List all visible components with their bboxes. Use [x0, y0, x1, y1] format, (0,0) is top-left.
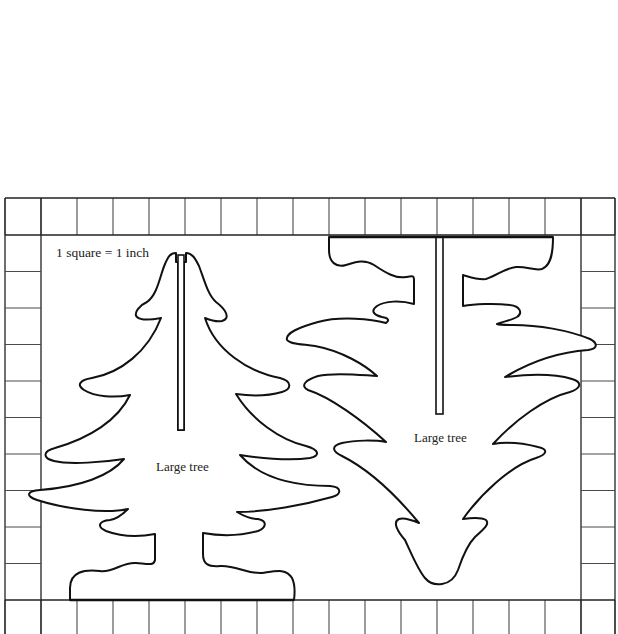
- large-tree-upright: [29, 253, 339, 600]
- tree-pattern-diagram: 1 square = 1 inch Large tree Large tree: [0, 0, 618, 634]
- scale-note: 1 square = 1 inch: [56, 245, 149, 260]
- large-tree-inverted: [287, 237, 596, 584]
- tree-label-inverted: Large tree: [414, 430, 467, 445]
- tree-label-upright: Large tree: [156, 459, 209, 474]
- slot-upright: [178, 255, 184, 430]
- slot-inverted: [436, 237, 443, 414]
